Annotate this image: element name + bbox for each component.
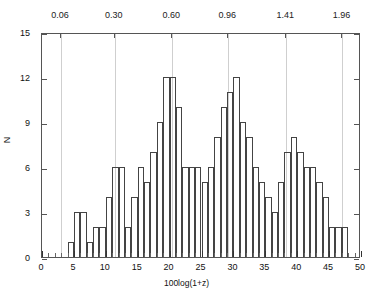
x-tick-33 [253, 253, 254, 257]
x-tick-10 [106, 251, 107, 257]
gridline-5 [342, 34, 343, 257]
x-tick-label-5: 5 [70, 262, 75, 272]
x-tick-label-40: 40 [291, 262, 301, 272]
y-tick-label-0: 0 [0, 253, 30, 263]
x-tick-27 [214, 253, 215, 257]
x-tick-39 [291, 253, 292, 257]
x-tick-25 [202, 251, 203, 257]
y-tick-15 [42, 34, 47, 35]
x-tick-label-10: 10 [100, 262, 110, 272]
y-tick-right-15 [354, 34, 359, 35]
x-tick-34 [259, 253, 260, 257]
x-tick-12 [119, 253, 120, 257]
x-tick-45 [329, 251, 330, 257]
y-tick-6 [42, 169, 47, 170]
y-tick-3 [42, 214, 47, 215]
x-tick-19 [163, 253, 164, 257]
x-tick-21 [176, 253, 177, 257]
x-tick-24 [195, 253, 196, 257]
x-tick-23 [189, 253, 190, 257]
y-tick-label-9: 9 [0, 118, 30, 128]
x-tick-50 [361, 251, 362, 257]
x-tick-5 [74, 251, 75, 257]
x-tick-22 [182, 253, 183, 257]
x-tick-label-15: 15 [132, 262, 142, 272]
x-tick-38 [284, 253, 285, 257]
y-tick-right-0 [354, 259, 359, 260]
top-tick-label-4: 1.41 [277, 10, 295, 20]
x-tick-42 [310, 253, 311, 257]
x-tick-17 [150, 253, 151, 257]
x-tick-2 [55, 253, 56, 257]
x-tick-8 [93, 253, 94, 257]
top-tick-label-3: 0.96 [219, 10, 237, 20]
y-tick-label-12: 12 [0, 73, 30, 83]
x-tick-7 [87, 253, 88, 257]
y-axis-title: N [2, 137, 12, 144]
top-tick-label-0: 0.06 [51, 10, 69, 20]
x-tick-9 [99, 253, 100, 257]
x-tick-49 [355, 253, 356, 257]
x-tick-11 [112, 253, 113, 257]
gridline-0 [61, 34, 62, 257]
x-tick-35 [265, 251, 266, 257]
x-tick-13 [125, 253, 126, 257]
x-tick-26 [208, 253, 209, 257]
y-tick-label-3: 3 [0, 208, 30, 218]
x-tick-28 [221, 253, 222, 257]
y-tick-right-9 [354, 124, 359, 125]
plot-area [41, 33, 360, 258]
x-tick-4 [68, 253, 69, 257]
x-tick-label-30: 30 [227, 262, 237, 272]
x-tick-31 [240, 253, 241, 257]
y-tick-right-3 [354, 214, 359, 215]
x-tick-43 [316, 253, 317, 257]
x-tick-48 [348, 253, 349, 257]
x-tick-label-35: 35 [259, 262, 269, 272]
x-tick-29 [227, 253, 228, 257]
x-tick-0 [42, 251, 43, 257]
x-tick-6 [80, 253, 81, 257]
x-tick-41 [304, 253, 305, 257]
x-tick-40 [297, 251, 298, 257]
y-tick-right-12 [354, 79, 359, 80]
top-tick-label-5: 1.96 [333, 10, 351, 20]
y-tick-9 [42, 124, 47, 125]
x-tick-label-45: 45 [323, 262, 333, 272]
x-tick-47 [342, 253, 343, 257]
x-tick-32 [246, 253, 247, 257]
x-tick-30 [233, 251, 234, 257]
y-tick-12 [42, 79, 47, 80]
histogram-figure: 0.060.300.600.961.411.96 03691215 051015… [0, 0, 373, 296]
x-tick-1 [48, 253, 49, 257]
x-tick-label-50: 50 [355, 262, 365, 272]
x-axis-title: 100log(1+z) [0, 278, 373, 288]
top-tick-label-1: 0.30 [105, 10, 123, 20]
x-tick-3 [61, 253, 62, 257]
x-tick-37 [278, 253, 279, 257]
x-tick-label-20: 20 [164, 262, 174, 272]
x-tick-16 [144, 253, 145, 257]
x-tick-15 [138, 251, 139, 257]
y-tick-label-6: 6 [0, 163, 30, 173]
top-tick-label-2: 0.60 [162, 10, 180, 20]
x-tick-14 [131, 253, 132, 257]
x-tick-20 [170, 251, 171, 257]
x-tick-label-25: 25 [195, 262, 205, 272]
x-tick-36 [272, 253, 273, 257]
y-tick-0 [42, 259, 47, 260]
y-tick-label-15: 15 [0, 28, 30, 38]
y-tick-right-6 [354, 169, 359, 170]
x-tick-label-0: 0 [38, 262, 43, 272]
x-tick-46 [335, 253, 336, 257]
x-tick-18 [157, 253, 158, 257]
x-tick-44 [323, 253, 324, 257]
